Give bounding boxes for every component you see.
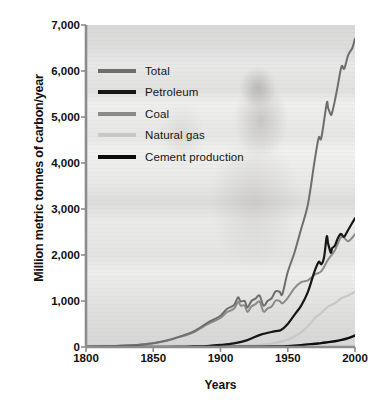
legend-swatch-icon (98, 69, 136, 73)
legend-item-label: Total (145, 65, 170, 77)
legend-item-label: Coal (145, 108, 169, 120)
x-tick-label: 1850 (140, 352, 166, 364)
legend-item-label: Petroleum (145, 86, 198, 98)
legend: TotalPetroleumCoalNatural gasCement prod… (98, 60, 273, 168)
x-axis-title: Years (86, 378, 355, 392)
legend-item: Total (98, 60, 273, 82)
legend-swatch-icon (98, 133, 136, 137)
legend-swatch-icon (98, 155, 136, 159)
x-tick-label: 2000 (342, 352, 368, 364)
legend-swatch-icon (98, 90, 136, 94)
legend-item-label: Cement production (145, 151, 244, 163)
x-tick-label: 1800 (73, 352, 99, 364)
legend-item: Natural gas (98, 125, 273, 147)
legend-item-label: Natural gas (145, 129, 205, 141)
legend-item: Petroleum (98, 82, 273, 104)
carbon-emissions-chart: Million metric tonnes of carbon/year 01,… (0, 0, 377, 413)
x-tick-label: 1950 (275, 352, 301, 364)
legend-item: Cement production (98, 146, 273, 168)
x-tick-label: 1900 (208, 352, 234, 364)
legend-item: Coal (98, 103, 273, 125)
legend-swatch-icon (98, 112, 136, 116)
